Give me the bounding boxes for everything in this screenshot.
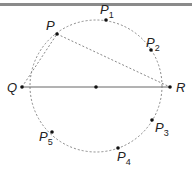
point-p3-dot bbox=[150, 118, 154, 122]
point-p1-dot bbox=[104, 18, 108, 22]
point-p-dot bbox=[55, 32, 59, 36]
label-p3: P3 bbox=[155, 120, 169, 138]
label-p2: P2 bbox=[146, 35, 160, 53]
point-p5-dot bbox=[50, 130, 54, 134]
label-r: R bbox=[176, 80, 185, 95]
circle-diagram: P P1 P2 P3 P4 P5 Q R bbox=[0, 0, 192, 170]
point-q-dot bbox=[20, 85, 24, 89]
center-dot bbox=[94, 85, 98, 89]
label-p1: P1 bbox=[100, 2, 114, 20]
segment-q-p bbox=[22, 34, 57, 87]
label-p4: P4 bbox=[117, 149, 131, 167]
point-r-dot bbox=[168, 85, 172, 89]
label-q: Q bbox=[7, 80, 17, 95]
label-p: P bbox=[46, 18, 55, 33]
